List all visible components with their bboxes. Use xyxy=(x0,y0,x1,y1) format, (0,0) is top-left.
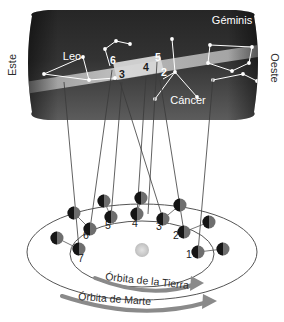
star xyxy=(255,79,259,83)
earth-number-6: 6 xyxy=(83,229,89,241)
orbit-group: 1 2 3 4 5 6 7 Órbita de la Tierra Órbita… xyxy=(27,192,257,311)
sky-position-3: 3 xyxy=(119,68,125,80)
earth-number-4: 4 xyxy=(132,217,138,229)
star xyxy=(241,72,245,76)
earth-dot xyxy=(178,226,191,239)
star xyxy=(247,61,251,65)
mars-dot xyxy=(51,232,64,245)
mars-dot xyxy=(98,195,111,208)
star xyxy=(170,37,174,41)
star xyxy=(206,61,210,65)
mars-dot xyxy=(174,199,187,212)
earth-number-2: 2 xyxy=(173,229,179,241)
earth-number-7: 7 xyxy=(78,252,84,264)
constellation-label-cancer: Cáncer xyxy=(170,94,206,106)
earth-number-3: 3 xyxy=(156,220,162,232)
star xyxy=(113,76,117,80)
star xyxy=(230,69,234,73)
star xyxy=(87,78,91,82)
mars-dot xyxy=(68,207,81,220)
star xyxy=(114,39,118,43)
direction-label-east: Este xyxy=(6,54,18,76)
sky-position-4: 4 xyxy=(143,61,149,73)
earth-dot xyxy=(192,246,205,259)
mars-arrow-head xyxy=(202,294,217,309)
sky-vignette-left xyxy=(24,6,58,126)
diagram-canvas: Leo Géminis Cáncer 6 3 4 5 2 Este Oeste xyxy=(0,0,284,322)
sun xyxy=(135,243,149,257)
earth-number-5: 5 xyxy=(105,219,111,231)
star xyxy=(128,42,132,46)
earth-orbit-label: Órbita de la Tierra xyxy=(105,270,190,291)
star xyxy=(173,70,177,74)
mars-dot xyxy=(217,243,230,256)
mars-dot xyxy=(203,216,216,229)
mars-dot xyxy=(135,192,148,205)
star xyxy=(250,45,254,49)
sky-position-2: 2 xyxy=(161,66,167,78)
sky-position-5: 5 xyxy=(155,51,161,63)
star xyxy=(103,47,107,51)
earth-number-1: 1 xyxy=(186,248,192,260)
sky-position-6: 6 xyxy=(110,54,116,66)
constellation-label-leo: Leo xyxy=(63,50,81,62)
retrograde-motion-diagram: Leo Géminis Cáncer 6 3 4 5 2 Este Oeste xyxy=(0,0,284,322)
star xyxy=(42,72,46,76)
earth-arrow-head xyxy=(190,276,204,291)
constellation-label-geminis: Géminis xyxy=(212,14,253,26)
star xyxy=(208,43,212,47)
direction-label-west: Oeste xyxy=(269,53,281,82)
star xyxy=(81,55,85,59)
